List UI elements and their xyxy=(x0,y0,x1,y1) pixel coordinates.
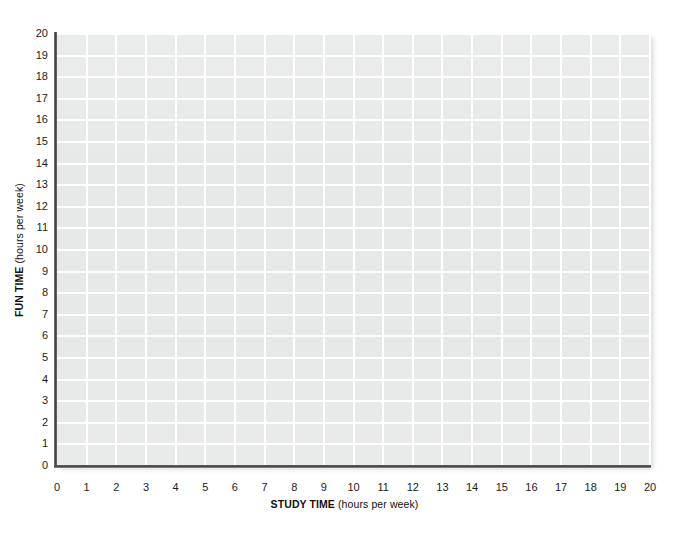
x-tick-label: 14 xyxy=(466,481,478,493)
x-tick-label: 17 xyxy=(555,481,567,493)
gridline-horizontal xyxy=(57,206,650,208)
x-tick-6: 6 xyxy=(220,477,250,491)
gridline-vertical xyxy=(323,34,325,466)
x-tick-label: 16 xyxy=(525,481,537,493)
x-tick-label: 12 xyxy=(407,481,419,493)
gridline-vertical xyxy=(649,34,651,466)
x-tick-label: 0 xyxy=(54,481,60,493)
gridline-vertical xyxy=(145,34,147,466)
y-axis-title-unit: (hours per week) xyxy=(13,183,25,263)
x-axis-line xyxy=(54,465,651,468)
gridline-horizontal xyxy=(57,357,650,359)
x-tick-label: 8 xyxy=(291,481,297,493)
gridline-vertical xyxy=(382,34,384,466)
x-tick-label: 4 xyxy=(173,481,179,493)
x-tick-label: 18 xyxy=(585,481,597,493)
x-tick-12: 12 xyxy=(398,477,428,491)
gridline-horizontal xyxy=(57,33,650,35)
gridline-vertical xyxy=(441,34,443,466)
gridline-horizontal xyxy=(57,227,650,229)
gridline-horizontal xyxy=(57,292,650,294)
x-tick-17: 17 xyxy=(546,477,576,491)
x-tick-20: 20 xyxy=(635,477,665,491)
x-tick-11: 11 xyxy=(368,477,398,491)
gridline-horizontal xyxy=(57,379,650,381)
gridline-vertical xyxy=(590,34,592,466)
gridline-horizontal xyxy=(57,184,650,186)
gridline-vertical xyxy=(175,34,177,466)
gridline-vertical xyxy=(501,34,503,466)
gridline-vertical xyxy=(471,34,473,466)
x-tick-5: 5 xyxy=(190,477,220,491)
x-tick-10: 10 xyxy=(339,477,369,491)
x-tick-label: 6 xyxy=(232,481,238,493)
x-axis-title: STUDY TIME (hours per week) xyxy=(0,498,689,510)
plot-area[interactable] xyxy=(57,34,650,466)
gridline-vertical xyxy=(204,34,206,466)
x-tick-label: 3 xyxy=(143,481,149,493)
x-tick-1: 1 xyxy=(72,477,102,491)
y-axis-line xyxy=(54,32,57,468)
x-tick-label: 7 xyxy=(261,481,267,493)
gridline-horizontal xyxy=(57,119,650,121)
x-tick-4: 4 xyxy=(161,477,191,491)
y-axis-title: FUN TIME (hours per week) xyxy=(10,0,28,500)
gridline-horizontal xyxy=(57,314,650,316)
gridline-vertical xyxy=(293,34,295,466)
x-tick-13: 13 xyxy=(427,477,457,491)
x-tick-9: 9 xyxy=(309,477,339,491)
x-tick-8: 8 xyxy=(279,477,309,491)
gridline-vertical xyxy=(115,34,117,466)
y-axis-title-bold: FUN TIME xyxy=(13,267,25,317)
x-tick-label: 20 xyxy=(644,481,656,493)
gridline-horizontal xyxy=(57,400,650,402)
gridline-vertical xyxy=(412,34,414,466)
gridline-horizontal xyxy=(57,98,650,100)
x-tick-label: 15 xyxy=(496,481,508,493)
gridline-horizontal xyxy=(57,422,650,424)
x-tick-0: 0 xyxy=(42,477,72,491)
x-tick-15: 15 xyxy=(487,477,517,491)
x-tick-2: 2 xyxy=(101,477,131,491)
x-tick-label: 5 xyxy=(202,481,208,493)
x-tick-label: 19 xyxy=(614,481,626,493)
gridline-vertical xyxy=(86,34,88,466)
x-tick-label: 1 xyxy=(84,481,90,493)
x-axis-title-unit: (hours per week) xyxy=(338,498,418,510)
gridline-vertical xyxy=(234,34,236,466)
x-tick-14: 14 xyxy=(457,477,487,491)
gridline-vertical xyxy=(264,34,266,466)
x-tick-18: 18 xyxy=(576,477,606,491)
x-tick-19: 19 xyxy=(605,477,635,491)
gridline-vertical xyxy=(560,34,562,466)
gridline-horizontal xyxy=(57,335,650,337)
x-tick-label: 11 xyxy=(377,481,388,493)
gridline-horizontal xyxy=(57,163,650,165)
gridline-horizontal xyxy=(57,141,650,143)
x-tick-label: 10 xyxy=(347,481,359,493)
x-tick-label: 13 xyxy=(436,481,448,493)
grid-lines xyxy=(57,34,650,466)
x-tick-16: 16 xyxy=(516,477,546,491)
gridline-vertical xyxy=(619,34,621,466)
gridline-horizontal xyxy=(57,55,650,57)
gridline-vertical xyxy=(530,34,532,466)
x-axis-title-bold: STUDY TIME xyxy=(271,498,335,510)
gridline-horizontal xyxy=(57,249,650,251)
chart-figure: 01234567891011121314151617181920 0123456… xyxy=(0,0,689,535)
gridline-vertical xyxy=(353,34,355,466)
gridline-horizontal xyxy=(57,76,650,78)
x-tick-label: 2 xyxy=(113,481,119,493)
gridline-horizontal xyxy=(57,271,650,273)
x-tick-7: 7 xyxy=(250,477,280,491)
x-tick-3: 3 xyxy=(131,477,161,491)
plot-paper-texture xyxy=(57,34,650,466)
gridline-horizontal xyxy=(57,443,650,445)
x-tick-label: 9 xyxy=(321,481,327,493)
